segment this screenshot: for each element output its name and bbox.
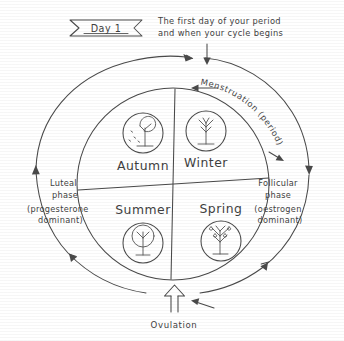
luteal-line-3: (progesterone xyxy=(27,204,89,214)
caption-line-1: The first day of your period xyxy=(157,16,281,26)
quadrant-spring xyxy=(201,221,241,261)
ovulation-direction-arrow-icon xyxy=(191,298,214,308)
follicular-line-4: dominant) xyxy=(258,215,303,225)
caption-line-2: and when your cycle begins xyxy=(158,28,283,38)
follicular-line-3: (oestrogen xyxy=(254,204,301,214)
ovulation-label: Ovulation xyxy=(151,320,198,330)
quadrant-autumn-label: Autumn xyxy=(117,158,169,173)
cycle-diagram: Day 1 The first day of your period and w… xyxy=(0,0,344,341)
quadrant-summer xyxy=(123,223,163,263)
quadrant-summer-label: Summer xyxy=(115,202,171,217)
quadrant-winter xyxy=(186,111,226,151)
follicular-line-1: Follicular xyxy=(258,178,298,188)
luteal-line-1: Luteal xyxy=(50,178,77,188)
quadrant-autumn xyxy=(123,113,163,153)
diagram-canvas: Day 1 The first day of your period and w… xyxy=(0,0,344,341)
inner-cycle-circle xyxy=(77,88,269,280)
caption-down-arrow-icon xyxy=(203,44,210,65)
ovulation-up-arrow-icon xyxy=(165,285,185,312)
quadrant-winter-label: Winter xyxy=(184,155,228,170)
banner-label: Day 1 xyxy=(91,23,122,34)
luteal-phase-label: Luteal phase (progesterone dominant) xyxy=(27,178,89,225)
follicular-line-2: phase xyxy=(265,190,291,200)
luteal-line-2: phase xyxy=(52,190,78,200)
luteal-line-4: dominant) xyxy=(38,215,83,225)
quadrant-spring-label: Spring xyxy=(200,201,243,216)
follicular-phase-label: Follicular phase (oestrogen dominant) xyxy=(254,178,302,225)
outer-arc-top-left xyxy=(36,54,193,168)
period-direction-arrow-icon xyxy=(269,152,284,161)
